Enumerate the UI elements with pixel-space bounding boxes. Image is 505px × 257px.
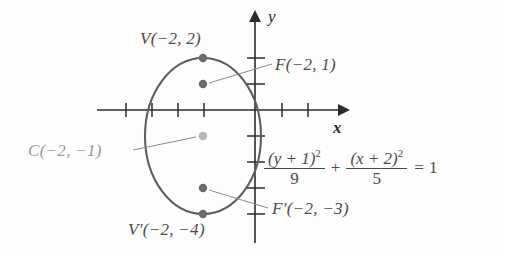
y-axis-ticks [247,58,265,214]
x-axis-arrowhead [338,104,350,116]
fraction-x-numerator-exponent: 2 [398,147,404,159]
label-center: C(−2, −1) [28,142,102,159]
ellipse-equation: (y + 1)2 9 + (x + 2)2 5 = 1 [262,148,437,187]
ellipse-figure: V(−2, 2) F(−2, 1) C(−2, −1) F′(−2, −3) V… [0,0,505,257]
y-axis-arrowhead [249,10,261,22]
label-vertex-top: V(−2, 2) [140,30,201,47]
fraction-x-term: (x + 2)2 5 [346,148,407,187]
fraction-y-numerator: (y + 1)2 [264,148,325,168]
label-focus-top: F(−2, 1) [275,56,336,73]
fraction-y-denominator: 9 [286,169,303,187]
leader-line-center [133,137,196,150]
leader-line-focus-bottom [209,190,268,208]
fraction-x-denominator: 5 [369,169,386,187]
point-focus-top [199,80,207,88]
label-vertex-bottom: V′(−2, −4) [128,221,205,238]
equation-equals-sign: = [414,159,424,176]
fraction-x-numerator-text: (x + 2) [350,149,397,168]
equation-right-hand-side: 1 [429,159,438,176]
point-center [199,132,207,140]
fraction-x-numerator: (x + 2)2 [346,148,407,168]
y-axis-label: y [268,8,276,25]
x-axis-label: x [333,119,342,136]
coordinate-plane-svg [0,0,505,257]
leader-line-focus-top [209,64,272,83]
point-focus-bottom [199,184,207,192]
point-vertex-bottom [199,210,207,218]
fraction-y-numerator-text: (y + 1) [268,149,315,168]
equation-plus-operator: + [331,159,341,176]
fraction-y-numerator-exponent: 2 [315,147,321,159]
label-focus-bottom: F′(−2, −3) [272,200,349,217]
fraction-y-term: (y + 1)2 9 [264,148,325,187]
point-vertex-top [199,54,207,62]
